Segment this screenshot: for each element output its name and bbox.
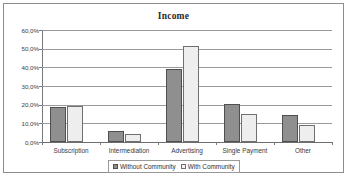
bar-group <box>216 30 274 142</box>
y-axis-tick-labels: 0,0%10,0%20,0%30,0%40,0%50,0%60,0% <box>4 30 39 142</box>
legend-swatch-icon <box>181 164 186 169</box>
x-tick-label: Other <box>274 146 332 155</box>
legend-label: Without Community <box>120 163 176 171</box>
bar-advertising-series1 <box>183 46 199 142</box>
bar-other-series1 <box>299 125 315 142</box>
y-tick-label: 40,0% <box>21 64 39 71</box>
chart-frame: Income 0,0%10,0%20,0%30,0%40,0%50,0%60,0… <box>3 3 344 173</box>
bar-subscription-series1 <box>67 106 83 142</box>
y-tick-label: 50,0% <box>21 45 39 52</box>
x-tick-label: Advertising <box>158 146 216 155</box>
bar-intermediation-series1 <box>125 134 141 142</box>
chart-legend: Without CommunityWith Community <box>108 160 240 173</box>
legend-label: With Community <box>188 163 235 171</box>
x-tick-label: Intermediation <box>100 146 158 155</box>
y-tick-label: 20,0% <box>21 101 39 108</box>
x-axis-tick-labels: SubscriptionIntermediationAdvertisingSin… <box>42 146 332 158</box>
y-tick-mark <box>39 123 42 124</box>
y-tick-mark <box>39 86 42 87</box>
y-tick-label: 30,0% <box>21 83 39 90</box>
y-tick-mark <box>39 49 42 50</box>
plot-area <box>42 30 332 142</box>
x-tick-mark <box>332 142 333 145</box>
y-tick-label: 0,0% <box>25 139 39 146</box>
y-tick-mark <box>39 67 42 68</box>
y-tick-mark <box>39 105 42 106</box>
x-tick-mark <box>274 142 275 145</box>
legend-swatch-icon <box>113 164 118 169</box>
legend-item: With Community <box>181 163 235 171</box>
x-tick-mark <box>100 142 101 145</box>
x-tick-label: Single Payment <box>216 146 274 155</box>
bar-group <box>158 30 216 142</box>
x-tick-mark <box>158 142 159 145</box>
bar-other-series0 <box>282 115 298 142</box>
x-tick-label: Subscription <box>42 146 100 155</box>
bar-advertising-series0 <box>166 69 182 142</box>
x-tick-mark <box>216 142 217 145</box>
bar-group <box>100 30 158 142</box>
bar-subscription-series0 <box>50 107 66 142</box>
y-tick-label: 10,0% <box>21 120 39 127</box>
bar-group <box>42 30 100 142</box>
bars-layer <box>42 30 332 142</box>
y-tick-mark <box>39 142 42 143</box>
bar-single-payment-series0 <box>224 104 240 142</box>
bar-intermediation-series0 <box>108 131 124 142</box>
chart-title: Income <box>4 11 343 21</box>
bar-single-payment-series1 <box>241 114 257 142</box>
gridline-00 <box>42 142 332 143</box>
bar-group <box>274 30 332 142</box>
y-tick-mark <box>39 30 42 31</box>
y-tick-label: 60,0% <box>21 27 39 34</box>
x-tick-mark <box>42 142 43 145</box>
legend-item: Without Community <box>113 163 176 171</box>
